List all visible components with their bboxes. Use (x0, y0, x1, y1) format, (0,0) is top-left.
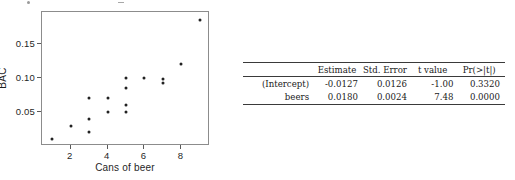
x-axis-title: Cans of beer (95, 162, 155, 173)
y-tick-mark (37, 77, 41, 78)
row-p-value: 0.3320 (458, 77, 505, 91)
data-point (161, 78, 164, 81)
table-header-row: Estimate Std. Error t value Pr(>|t|) (243, 63, 505, 77)
data-point (88, 117, 91, 120)
y-tick-label: 0.10 (16, 71, 35, 82)
plot-area (41, 11, 209, 145)
x-tick-label: 8 (178, 150, 183, 161)
data-point (161, 82, 164, 85)
table-row: beers 0.0180 0.0024 7.48 0.0000 (243, 90, 505, 104)
data-point (88, 131, 91, 134)
row-p-value: 0.0000 (458, 90, 505, 104)
col-header-term (243, 63, 316, 77)
y-tick-mark (37, 43, 41, 44)
col-header-std-error: Std. Error (363, 63, 412, 77)
x-tick-mark (107, 145, 108, 149)
y-tick-label: 0.15 (16, 37, 35, 48)
data-point (125, 104, 128, 107)
row-estimate: 0.0180 (316, 90, 363, 104)
x-tick-mark (70, 145, 71, 149)
y-tick-label: 0.05 (16, 105, 35, 116)
row-term: (Intercept) (243, 77, 316, 91)
data-point (106, 110, 109, 113)
regression-coefficients-table: Estimate Std. Error t value Pr(>|t|) (In… (243, 62, 505, 105)
regression-table-container: Estimate Std. Error t value Pr(>|t|) (In… (243, 62, 505, 105)
data-point (125, 76, 128, 79)
y-axis-title: BAC (0, 67, 8, 88)
row-t-value: -1.00 (412, 77, 458, 91)
row-term: beers (243, 90, 316, 104)
data-point (198, 19, 201, 22)
row-std-error: 0.0024 (363, 90, 412, 104)
x-tick-mark (143, 145, 144, 149)
x-tick-label: 4 (104, 150, 109, 161)
table-row: (Intercept) -0.0127 0.0126 -1.00 0.3320 (243, 77, 505, 91)
scatter-plot-figure: BAC 0.050.100.15 Cans of beer 2468 (0, 0, 230, 180)
y-tick-mark (37, 111, 41, 112)
data-point (143, 76, 146, 79)
row-estimate: -0.0127 (316, 77, 363, 91)
data-point (88, 97, 91, 100)
data-point (106, 97, 109, 100)
col-header-t-value: t value (412, 63, 458, 77)
data-point (51, 138, 54, 141)
data-point (125, 110, 128, 113)
row-t-value: 7.48 (412, 90, 458, 104)
data-point (69, 124, 72, 127)
row-std-error: 0.0126 (363, 77, 412, 91)
col-header-estimate: Estimate (316, 63, 363, 77)
data-point (180, 63, 183, 66)
col-header-p-value: Pr(>|t|) (458, 63, 505, 77)
x-tick-label: 2 (67, 150, 72, 161)
x-tick-mark (180, 145, 181, 149)
x-tick-label: 6 (141, 150, 146, 161)
data-point (125, 87, 128, 90)
x-axis: Cans of beer 2468 (0, 145, 230, 180)
